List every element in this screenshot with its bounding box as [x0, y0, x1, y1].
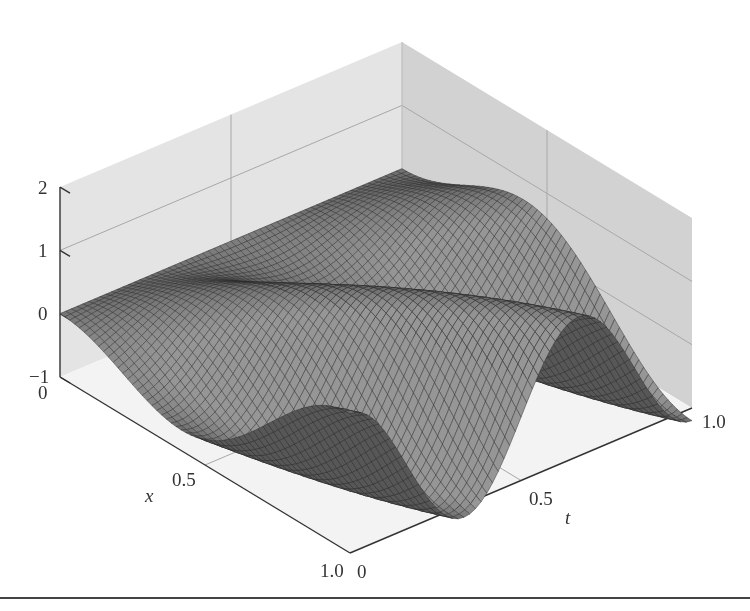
t-tick-label-0.5: 0.5 — [529, 489, 553, 508]
x-axis-label: x — [145, 486, 153, 505]
x-tick-label-1.0: 1.0 — [320, 561, 344, 580]
t-tick-label-0: 0 — [357, 562, 367, 581]
x-tick-label-0.5: 0.5 — [172, 470, 196, 489]
x-tick-label-0: 0 — [38, 383, 48, 402]
z-tick-label-1: 1 — [38, 241, 48, 260]
bottom-rule-divider — [0, 597, 750, 599]
surface-plot-figure: 2 1 0 −1 0 0.5 1.0 x 0 0.5 1.0 t — [0, 0, 750, 611]
t-axis-label: t — [565, 508, 570, 527]
z-tick-label-2: 2 — [38, 178, 48, 197]
z-tick-label-0: 0 — [38, 304, 48, 323]
t-tick-label-1.0: 1.0 — [702, 412, 726, 431]
surface-plot-canvas — [0, 0, 750, 611]
